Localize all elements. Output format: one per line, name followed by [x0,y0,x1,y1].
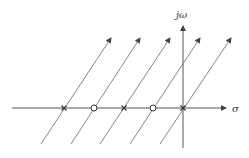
zero-marker [150,105,156,111]
locus-line-3 [100,38,170,144]
locus-line-1 [41,38,111,144]
locus-lines [41,38,231,144]
real-axis-label: σ [232,103,240,114]
locus-line-5 [160,38,231,144]
locus-line-2 [71,38,140,144]
zero-marker [91,105,97,111]
imaginary-axis-label: jω [174,9,187,20]
root-locus-diagram: jω σ [0,0,249,158]
locus-line-4 [130,38,200,144]
